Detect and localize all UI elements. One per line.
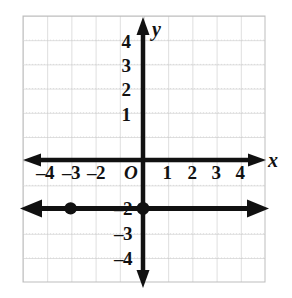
y-tick-label-negative-2: –2 [110,199,136,218]
origin-label: O [124,163,138,182]
y-tick-label-4: 4 [116,32,136,51]
data-point-0-neg2 [137,202,150,215]
y-axis-label: y [152,19,161,39]
y-tick-label-2: 2 [116,80,136,99]
x-tick-label-4: 4 [230,163,250,182]
coordinate-plane-figure: y x O 4 3 2 1 –2 –3 –4 –4 –3 –2 1 2 3 4 [0,0,292,298]
x-tick-label-negative-2: –2 [83,163,109,182]
y-tick-label-negative-3: –3 [110,224,136,243]
x-tick-label-1: 1 [157,163,177,182]
x-axis-label: x [268,150,278,170]
x-tick-label-negative-3: –3 [58,163,84,182]
y-tick-label-3: 3 [116,56,136,75]
data-point-neg3-neg2 [64,202,76,214]
x-tick-label-negative-4: –4 [32,163,58,182]
y-tick-label-1: 1 [116,105,136,124]
x-tick-label-3: 3 [206,163,226,182]
x-tick-label-2: 2 [182,163,202,182]
y-tick-label-negative-4: –4 [110,249,136,268]
coordinate-plane-svg [0,0,292,298]
